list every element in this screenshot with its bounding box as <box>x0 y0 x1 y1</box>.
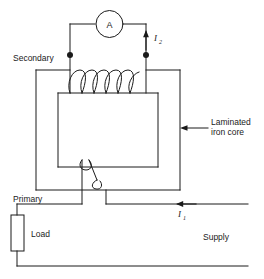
i1-subscript: 1 <box>183 215 186 221</box>
primary-cross <box>89 160 97 180</box>
secondary-label: Secondary <box>13 53 54 63</box>
secondary-turn-tail <box>129 72 139 93</box>
ammeter-branch <box>70 11 146 56</box>
supply-label: Supply <box>203 232 230 242</box>
core-leader-line <box>180 125 208 130</box>
current-i2-label: I 2 <box>153 33 162 45</box>
secondary-winding <box>69 70 139 93</box>
load-label: Load <box>31 229 50 239</box>
i2-subscript: 2 <box>159 39 162 45</box>
current-i1-arrow <box>176 201 196 207</box>
core-leader-arrowhead <box>180 125 188 130</box>
i2-symbol: I <box>153 33 158 43</box>
load-resistor <box>11 215 24 251</box>
primary-hook-right <box>92 180 101 189</box>
secondary-turn-1 <box>69 70 86 93</box>
core-label-line2: iron core <box>211 127 244 137</box>
i1-symbol: I <box>177 209 182 219</box>
circuit-diagram-canvas: A Secondary Primary Load Supply Laminate… <box>0 0 264 279</box>
ammeter-label: A <box>106 20 112 30</box>
core-label-line1: Laminated <box>211 117 251 127</box>
current-i2-arrow <box>143 30 149 50</box>
circuit-diagram: A Secondary Primary Load Supply Laminate… <box>0 0 264 279</box>
iron-core-rect <box>58 93 158 167</box>
primary-label: Primary <box>13 194 43 204</box>
current-i1-label: I 1 <box>177 209 186 221</box>
